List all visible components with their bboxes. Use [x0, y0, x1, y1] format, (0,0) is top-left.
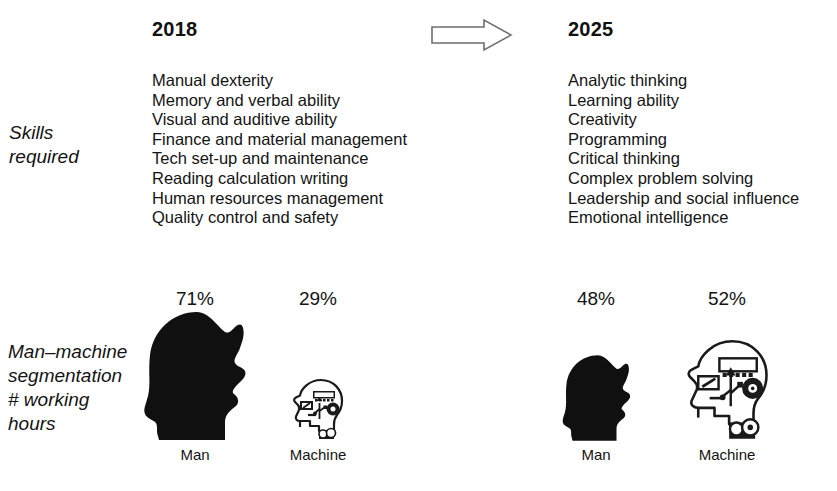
list-item: Reading calculation writing	[152, 169, 407, 189]
list-item: Human resources management	[152, 189, 407, 209]
list-item: Learning ability	[568, 91, 799, 111]
figure-caption: Machine	[243, 446, 393, 463]
column-heading-2025: 2025	[568, 18, 613, 41]
skills-list-2025: Analytic thinking Learning ability Creat…	[568, 71, 799, 228]
list-item: Emotional intelligence	[568, 208, 799, 228]
segmentation-cell-2025-machine: 52%	[652, 288, 802, 473]
list-item: Quality control and safety	[152, 208, 407, 228]
row-label-skills-required: Skills required	[9, 121, 79, 169]
percent-label: 48%	[521, 288, 671, 310]
human-head-silhouette-icon	[521, 354, 671, 442]
robot-head-outline-icon	[652, 338, 802, 442]
list-item: Critical thinking	[568, 149, 799, 169]
list-item: Creativity	[568, 110, 799, 130]
list-item: Manual dexterity	[152, 71, 407, 91]
list-item: Leadership and social influence	[568, 189, 799, 209]
segmentation-cell-2018-machine: 29%	[243, 288, 393, 473]
list-item: Complex problem solving	[568, 169, 799, 189]
column-heading-2018: 2018	[152, 18, 197, 41]
robot-head-outline-icon	[243, 378, 393, 442]
list-item: Programming	[568, 130, 799, 150]
percent-label: 52%	[652, 288, 802, 310]
segmentation-cell-2025-man: 48% Man	[521, 288, 671, 473]
list-item: Visual and auditive ability	[152, 110, 407, 130]
infographic-root: Skills required Man–machine segmentation…	[0, 0, 837, 491]
figure-caption: Machine	[652, 446, 802, 463]
percent-label: 29%	[243, 288, 393, 310]
list-item: Finance and material management	[152, 130, 407, 150]
list-item: Tech set-up and maintenance	[152, 149, 407, 169]
figure-caption: Man	[521, 446, 671, 463]
arrow-right-outline-icon	[430, 18, 514, 52]
list-item: Analytic thinking	[568, 71, 799, 91]
list-item: Memory and verbal ability	[152, 91, 407, 111]
skills-list-2018: Manual dexterity Memory and verbal abili…	[152, 71, 407, 228]
row-label-man-machine-segmentation: Man–machine segmentation # working hours	[8, 340, 127, 436]
